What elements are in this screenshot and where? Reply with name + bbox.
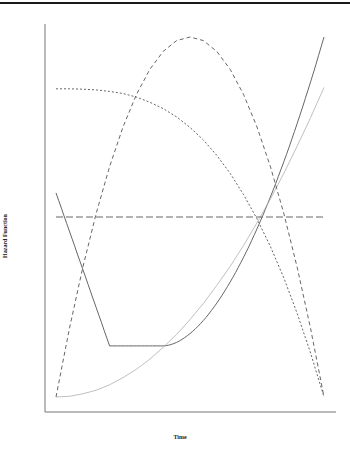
x-axis-label: Time (160, 434, 200, 440)
hazard-chart (0, 0, 350, 451)
series-bathtub-line (56, 37, 324, 346)
series-layer (56, 37, 324, 397)
series-decreasing-line (56, 89, 324, 397)
series-increasing-line (56, 87, 324, 397)
y-axis-label: Hazard Function (2, 201, 8, 271)
